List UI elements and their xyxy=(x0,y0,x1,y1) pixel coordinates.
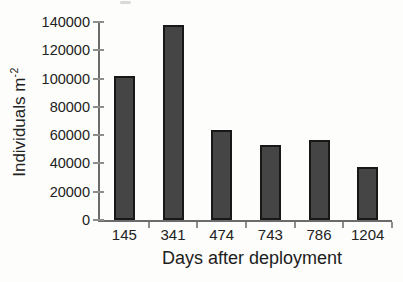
x-axis-tick xyxy=(294,222,296,228)
y-tick-label: 20000 xyxy=(50,184,90,200)
x-tick-label: 743 xyxy=(258,226,283,243)
y-axis-tick xyxy=(93,21,104,23)
y-tick-label: 0 xyxy=(82,212,90,228)
bar-341 xyxy=(163,25,184,220)
x-axis-tick xyxy=(342,222,344,228)
x-tick-label: 1204 xyxy=(351,226,384,243)
y-axis-label: Individuals m-2 xyxy=(8,67,30,177)
x-axis-tick xyxy=(196,222,198,228)
y-axis-tick xyxy=(93,134,104,136)
x-axis-tick xyxy=(245,222,247,228)
x-axis-tick xyxy=(148,222,150,228)
y-tick-label: 140000 xyxy=(42,14,90,30)
bar-chart-figure: Individuals m-2 020000400006000080000100… xyxy=(0,0,403,282)
bar-1204 xyxy=(357,167,378,220)
y-tick-label: 100000 xyxy=(42,71,90,87)
bar-474 xyxy=(211,130,232,221)
y-axis-tick xyxy=(93,78,104,80)
bar-786 xyxy=(309,140,330,220)
bar-145 xyxy=(114,76,135,220)
y-axis-label-text: Individuals m xyxy=(10,78,29,177)
y-axis-tick xyxy=(93,49,104,51)
y-tick-label: 60000 xyxy=(50,127,90,143)
x-axis-label: Days after deployment xyxy=(162,248,342,269)
scan-artifact xyxy=(120,1,131,4)
y-axis-tick xyxy=(93,162,104,164)
y-tick-label: 120000 xyxy=(42,42,90,58)
x-tick-label: 145 xyxy=(112,226,137,243)
x-tick-label: 474 xyxy=(209,226,234,243)
x-tick-label: 786 xyxy=(306,226,331,243)
y-axis-tick xyxy=(93,106,104,108)
x-axis-tick xyxy=(391,222,393,228)
y-tick-label: 40000 xyxy=(50,155,90,171)
y-axis-label-superscript: -2 xyxy=(8,67,20,77)
y-axis-tick xyxy=(93,191,104,193)
bar-743 xyxy=(260,145,281,220)
x-tick-label: 341 xyxy=(160,226,185,243)
y-axis-tick xyxy=(93,219,104,221)
plot-area: 0200004000060000800001000001200001400001… xyxy=(98,22,392,222)
y-tick-label: 80000 xyxy=(50,99,90,115)
